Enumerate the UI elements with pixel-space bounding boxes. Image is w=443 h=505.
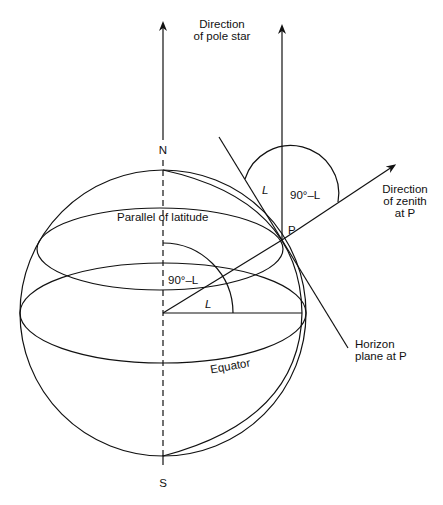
angle-l-top: L	[262, 184, 268, 196]
angle-l-center: L	[205, 298, 211, 310]
pole-star-label-1: Direction	[199, 18, 244, 30]
parallel-label: Parallel of latitude	[117, 211, 208, 223]
horizon-line	[219, 137, 348, 348]
point-p-label: P	[288, 224, 296, 236]
angle-90-top: 90°–L	[290, 189, 321, 201]
zenith-label-2: of zenith	[383, 195, 426, 207]
zenith-label-3: at P	[395, 207, 416, 219]
pole-star-label-2: of pole star	[194, 30, 251, 42]
zenith-label-1: Direction	[382, 183, 427, 195]
south-label: S	[159, 477, 167, 489]
angle-90-center: 90°–L	[168, 274, 199, 286]
zenith-arrow	[282, 167, 392, 240]
latitude-diagram: Direction of pole star N S Parallel of l…	[0, 0, 443, 505]
horizon-label-2: plane at P	[355, 350, 407, 362]
horizon-label-1: Horizon	[355, 338, 395, 350]
north-label: N	[159, 144, 167, 156]
